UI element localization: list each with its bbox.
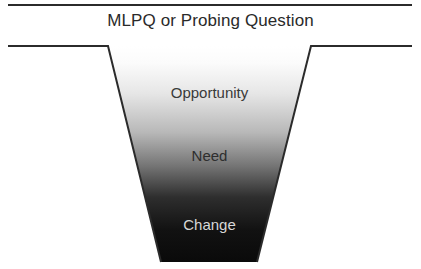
stage-need-label: Need bbox=[0, 147, 420, 164]
stage-opportunity-label: Opportunity bbox=[0, 84, 420, 101]
stage-change-label: Change bbox=[0, 216, 420, 233]
